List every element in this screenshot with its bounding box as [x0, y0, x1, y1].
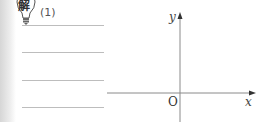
- y-axis-arrow-icon: [178, 12, 183, 19]
- origin-label: O: [168, 96, 178, 108]
- y-axis-label: y: [169, 11, 176, 23]
- x-axis-label: x: [245, 96, 252, 108]
- coordinate-plane: [0, 0, 270, 122]
